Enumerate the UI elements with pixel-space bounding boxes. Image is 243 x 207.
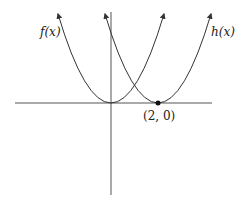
label-point: (2, 0) bbox=[143, 109, 175, 123]
graph-canvas bbox=[0, 0, 243, 207]
curve-h bbox=[105, 14, 211, 103]
label-h: h(x) bbox=[211, 25, 235, 39]
point-2-0 bbox=[156, 101, 161, 106]
label-f: f(x) bbox=[40, 25, 61, 39]
